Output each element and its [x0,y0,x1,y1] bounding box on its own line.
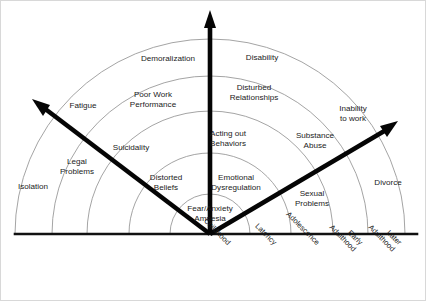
ring-label-divorce: Divorce [374,178,402,187]
ring-label-acting-out-behaviors: Acting outBehaviors [210,129,247,148]
stage-axis-label-adolescence: Adolescence [284,210,321,247]
ring-label-demoralization: Demoralization [141,54,195,63]
diagram-canvas: IsolationLegalProblemsFatigueSuicidality… [0,0,426,301]
ring-label-acting-out-behaviors-line-1: Acting out [210,129,247,138]
ring-label-inability-to-work-line-1: Inability [339,104,367,113]
ring-label-demoralization-line-1: Demoralization [141,54,195,63]
ring-label-disturbed-relationships-line-1: Disturbed [237,83,272,92]
ring-label-legal-problems-line-2: Problems [60,167,94,176]
ring-label-divorce-line-1: Divorce [374,178,402,187]
ring-label-substance-abuse: SubstanceAbuse [296,131,335,150]
ring-label-suicidality: Suicidality [113,143,150,152]
ring-label-disability: Disability [246,53,279,62]
ring-label-disturbed-relationships-line-2: Relationships [230,93,279,102]
ring-label-inability-to-work-line-2: to work [340,114,367,123]
fan-diagram: IsolationLegalProblemsFatigueSuicidality… [1,1,426,301]
ring-label-substance-abuse-line-1: Substance [296,131,335,140]
stage-axis-label-adolescence-line-1: Adolescence [284,210,321,247]
ring-label-sexual-problems-line-1: Sexual [300,189,325,198]
ring-label-fatigue-line-1: Fatigue [70,101,97,110]
ring-label-poor-work-performance-line-1: Poor Work [134,90,173,99]
ring-label-distorted-beliefs-line-1: Distorted [150,173,182,182]
ring-label-sexual-problems: SexualProblems [295,189,329,208]
core-label-fear-anxiety-amnesia-line-1: Fear/Anxiety [187,204,233,213]
vertical-axis-arrowhead [204,10,216,28]
stage-label-layer: ChildhoodLatencyAdolescenceEarlyAdulthoo… [202,210,404,254]
ring-label-poor-work-performance: Poor WorkPerformance [130,90,177,109]
ring-label-emotional-dysregulation: EmotionalDysregulation [211,173,261,192]
ring-label-emotional-dysregulation-line-1: Emotional [218,173,254,182]
ring-label-poor-work-performance-line-2: Performance [130,100,177,109]
ring-label-disability-line-1: Disability [246,53,279,62]
ring-label-acting-out-behaviors-line-2: Behaviors [210,139,246,148]
ring-label-inability-to-work: Inabilityto work [339,104,367,123]
left-axis-arrowhead [32,99,50,116]
ring-label-substance-abuse-line-2: Abuse [304,141,327,150]
ring-label-isolation-line-1: Isolation [18,182,48,191]
ring-label-isolation: Isolation [18,182,48,191]
ring-label-suicidality-line-1: Suicidality [113,143,150,152]
ring-label-legal-problems: LegalProblems [60,157,94,176]
ring-label-fatigue: Fatigue [70,101,97,110]
ring-label-distorted-beliefs: DistortedBeliefs [150,173,182,192]
ring-label-sexual-problems-line-2: Problems [295,199,329,208]
ring-label-disturbed-relationships: DisturbedRelationships [230,83,279,102]
ring-label-legal-problems-line-1: Legal [67,157,87,166]
ring-label-emotional-dysregulation-line-2: Dysregulation [211,183,261,192]
ring-label-distorted-beliefs-line-2: Beliefs [154,183,178,192]
